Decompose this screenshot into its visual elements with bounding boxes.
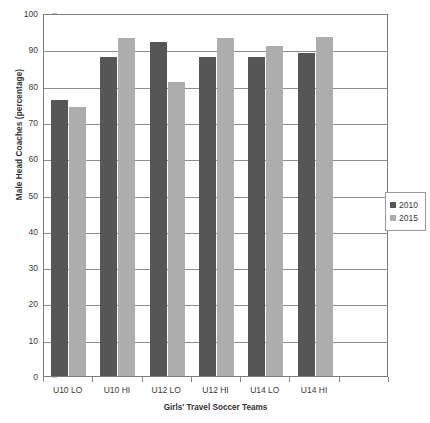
- bar-u14-lo-2015: [266, 46, 283, 376]
- legend-item-2010: 2010: [390, 200, 422, 210]
- bar-u10-hi-2010: [100, 57, 117, 376]
- y-axis-ticks: 0102030405060708090100: [14, 14, 38, 377]
- bar-u10-lo-2015: [69, 107, 86, 376]
- bar-u12-lo-2010: [150, 42, 167, 376]
- y-tick-label: 100: [14, 9, 38, 19]
- x-tick-mark: [240, 377, 241, 382]
- bar-u12-hi-2015: [217, 38, 234, 376]
- x-tick-mark: [43, 377, 44, 382]
- x-tick-mark: [388, 377, 389, 382]
- x-axis-title: Girls' Travel Soccer Teams: [43, 403, 388, 412]
- x-tick-mark: [92, 377, 93, 382]
- y-tick-label: 30: [14, 263, 38, 273]
- x-tick-label: U10 HI: [104, 385, 130, 395]
- y-tick-label: 60: [14, 154, 38, 164]
- bar-u10-hi-2015: [118, 38, 135, 376]
- x-tick-label: U14 LO: [250, 385, 279, 395]
- x-tick-mark: [142, 377, 143, 382]
- x-tick-label: U10 LO: [53, 385, 82, 395]
- bar-chart: Male Head Coaches (percentage) 010203040…: [0, 0, 430, 423]
- legend-swatch-icon-2010: [390, 202, 396, 208]
- bar-u14-hi-2010: [298, 53, 315, 376]
- bar-u10-lo-2010: [51, 100, 68, 376]
- x-tick-label: U12 HI: [202, 385, 228, 395]
- x-tick-mark: [289, 377, 290, 382]
- legend-label-2010: 2010: [399, 200, 418, 210]
- plot-area: [43, 14, 388, 377]
- legend-label-2015: 2015: [399, 213, 418, 223]
- legend-swatch-icon-2015: [390, 215, 396, 221]
- x-tick-mark: [191, 377, 192, 382]
- bars-layer: [44, 15, 387, 376]
- legend: 2010 2015: [385, 192, 426, 231]
- bar-u12-hi-2010: [199, 57, 216, 376]
- legend-item-2015: 2015: [390, 213, 422, 223]
- y-tick-label: 0: [14, 372, 38, 382]
- y-tick-label: 20: [14, 299, 38, 309]
- y-tick-label: 10: [14, 336, 38, 346]
- x-tick-mark: [339, 377, 340, 382]
- x-tick-label: U14 HI: [301, 385, 327, 395]
- bar-u12-lo-2015: [168, 82, 185, 376]
- y-tick-label: 40: [14, 227, 38, 237]
- y-tick-label: 90: [14, 45, 38, 55]
- y-tick-label: 80: [14, 82, 38, 92]
- y-tick-label: 70: [14, 118, 38, 128]
- x-tick-label: U12 LO: [152, 385, 181, 395]
- y-tick-label: 50: [14, 191, 38, 201]
- bar-u14-hi-2015: [316, 37, 333, 376]
- bar-u14-lo-2010: [248, 57, 265, 376]
